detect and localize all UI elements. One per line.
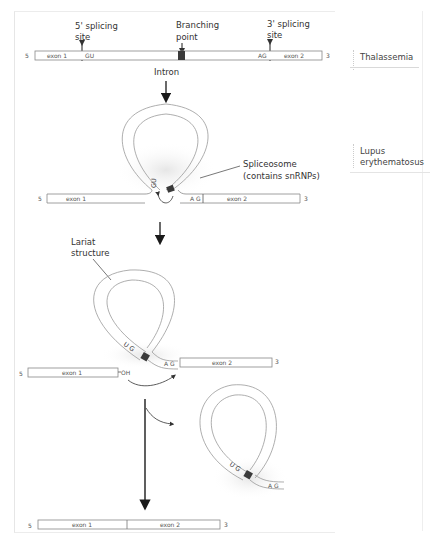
three-end: 3 [304,195,308,202]
lariat-release-arrow [146,408,172,424]
branch-point-label: Branching [176,20,219,30]
intron-label: Intron [154,67,179,77]
sidebar-item-thalassemia[interactable]: Thalassemia [360,52,413,63]
exon2-label: exon 2 [227,195,247,202]
ligation-arrow [128,376,174,386]
exon2-label: exon 2 [212,359,232,366]
five-prime-site-label: 5' splicing [75,21,118,31]
exon1-label: exon 1 [72,521,92,528]
gu-label: GU [150,178,158,188]
lariat-label: Lariat [71,237,96,247]
stage4-products: U G A G 5 exon 1 exon 2 3 [28,385,288,529]
exon1-label: exon 1 [62,369,82,376]
five-end: 5 [38,195,42,202]
stage2-spliceosome: GU Spliceosome (contains snRNPs) 5 exon … [38,104,320,240]
three-prime-site-label: 3' splicing [267,19,310,29]
exon1-label: exon 1 [47,52,67,59]
mature-mrna-strand [38,520,220,529]
ag-label: A G [190,195,201,202]
stage1-premrna: 5' splicing site Branching point 3' spli… [25,19,330,98]
lariat-pointer [93,259,111,280]
five-end: 5 [28,522,32,529]
splicing-diagram: 5' splicing site Branching point 3' spli… [0,0,435,542]
three-prime-site-label-2: site [267,30,282,40]
three-end: 3 [224,521,228,528]
sidebar-item-label: Lupus [360,146,424,157]
lariat-label-2: structure [71,248,110,258]
divider [350,172,430,173]
spliceosome-label-2: (contains snRNPs) [243,171,320,181]
branch-point-label-2: point [176,32,198,42]
ag-label: A G [164,360,175,367]
stage3-lariat: Lariat structure U G A G exon 2 3 5 exon… [19,237,279,386]
lariat-loop-inner [107,280,164,352]
exon2-label: exon 2 [284,52,304,59]
five-prime-site-label-2: site [75,32,90,42]
branch-point-box [178,51,185,60]
oh-label: OH [121,369,130,376]
spliceosome-label: Spliceosome [243,159,297,169]
gu-label: GU [85,52,94,59]
sidebar-item-label-2: erythematosus [360,157,424,168]
three-end: 3 [326,52,330,59]
divider [350,67,419,68]
ag-label: A G [268,482,279,489]
three-end: 3 [275,358,279,365]
exon1-label: exon 1 [66,195,86,202]
sidebar-item-lupus[interactable]: Lupus erythematosus [360,146,424,168]
margin-bracket-icon [353,144,355,168]
five-end: 5 [19,370,23,377]
ag-label: AG [258,52,267,59]
sidebar-item-label: Thalassemia [360,52,413,62]
five-end: 5 [25,52,29,59]
exon2-label: exon 2 [160,521,180,528]
